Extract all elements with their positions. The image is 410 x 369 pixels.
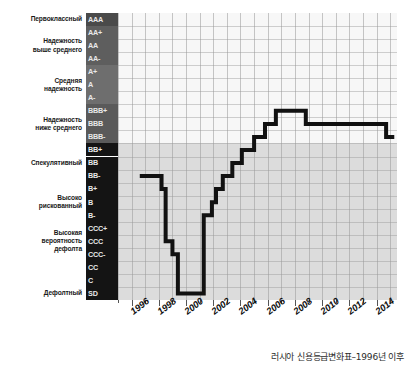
category-label: Надежностьвыше среднего	[0, 37, 82, 53]
rating-label: A	[88, 81, 93, 88]
plot-area	[118, 13, 397, 300]
rating-label: BBB	[88, 120, 103, 127]
rating-label: CC	[88, 264, 98, 271]
rating-label: BBB+	[88, 107, 107, 114]
rating-row-bminus: B-	[86, 209, 118, 222]
rating-row-cc: CC	[86, 261, 118, 274]
rating-row-sd: SD	[86, 287, 118, 300]
rating-label: A+	[88, 68, 97, 75]
rating-label: AA-	[88, 55, 100, 62]
rating-label: BB+	[88, 146, 102, 153]
rating-row-ccc: CCC	[86, 235, 118, 248]
rating-label: AA+	[88, 29, 102, 36]
x-axis-labels: 1996199820002002200420062008201020122014	[100, 302, 410, 348]
rating-label: B	[88, 199, 93, 206]
rating-step-line	[118, 13, 397, 300]
category-label: Дефолтный	[0, 289, 82, 297]
rating-row-b: B	[86, 196, 118, 209]
rating-label: CCC	[88, 238, 103, 245]
category-label: Высокаявероятностьдефолта	[0, 229, 82, 254]
category-label: Надежностьниже среднего	[0, 116, 82, 132]
category-label-column: ПервоклассныйНадежностьвыше среднегоСред…	[0, 13, 84, 300]
rating-row-aminus: A-	[86, 91, 118, 104]
rating-row-a: A	[86, 78, 118, 91]
rating-row-aaplus: AA+	[86, 26, 118, 39]
rating-label: A-	[88, 94, 95, 101]
rating-row-aplus: A+	[86, 65, 118, 78]
rating-label: SD	[88, 290, 98, 297]
rating-row-c: C	[86, 274, 118, 287]
rating-label: BB-	[88, 172, 100, 179]
rating-label: CCC-	[88, 251, 105, 258]
rating-row-bbplus: BB+	[86, 143, 118, 156]
rating-label: B+	[88, 185, 97, 192]
rating-row-cccplus: CCC+	[86, 222, 118, 235]
rating-row-aaa: AAA	[86, 13, 118, 26]
category-label: Спекулятивный	[0, 159, 82, 167]
rating-label: AA	[88, 42, 98, 49]
credit-rating-chart-figure: ПервоклассныйНадежностьвыше среднегоСред…	[0, 0, 410, 369]
rating-row-bbbplus: BBB+	[86, 104, 118, 117]
rating-label: AAA	[88, 16, 103, 23]
rating-row-bb: BB	[86, 157, 118, 170]
rating-step-polyline	[140, 111, 395, 294]
rating-label: BBB-	[88, 133, 105, 140]
rating-row-bbb: BBB	[86, 117, 118, 130]
rating-row-bplus: B+	[86, 183, 118, 196]
category-label: Высокорискованный	[0, 194, 82, 210]
category-label: Средняянадежность	[0, 77, 82, 93]
rating-label: BB	[88, 159, 98, 166]
rating-label: C	[88, 277, 93, 284]
rating-label: CCC+	[88, 225, 107, 232]
category-label: Первоклассный	[0, 15, 82, 23]
rating-row-aaminus: AA-	[86, 52, 118, 65]
rating-label: B-	[88, 212, 95, 219]
rating-row-cccminus: CCC-	[86, 248, 118, 261]
figure-caption: 러시아 신용등급변화표–1996년 이후	[271, 350, 404, 363]
rating-row-bbminus: BB-	[86, 170, 118, 183]
rating-scale-column: AAAAA+AAAA-A+AA-BBB+BBBBBB-BB+BBBB-B+BB-…	[86, 13, 118, 300]
rating-row-aa: AA	[86, 39, 118, 52]
rating-row-bbbminus: BBB-	[86, 130, 118, 143]
